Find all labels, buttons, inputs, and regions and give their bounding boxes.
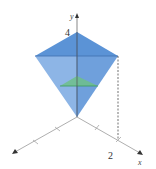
top-face xyxy=(35,32,118,56)
x-axis-arrow-icon xyxy=(137,150,143,155)
z-axis-arrow-icon xyxy=(12,149,18,154)
y-tick-label: 4 xyxy=(65,27,70,38)
x-axis xyxy=(77,117,140,153)
y-axis-arrow-icon xyxy=(75,13,79,18)
z-axis xyxy=(15,117,77,152)
lower-left-face xyxy=(35,56,77,117)
lower-right-face xyxy=(77,56,118,117)
diagram-canvas: y 4 x 2 xyxy=(0,0,156,169)
x-axis-label: x xyxy=(137,158,142,167)
x-tick-label: 2 xyxy=(108,150,113,161)
y-axis-label: y xyxy=(69,12,74,21)
solid xyxy=(35,32,118,117)
